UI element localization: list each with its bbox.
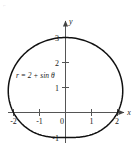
plot-canvas: -2 -1 0 1 2 -1 1 2 3 x y r = 2 + sin θ (0, 0, 137, 153)
x-axis-label: x (126, 108, 131, 117)
xtick-label-neg2: -2 (10, 117, 17, 126)
y-axis-label: y (68, 17, 73, 26)
xtick-label-neg1: -1 (36, 117, 43, 126)
ytick-label-neg1: -1 (52, 134, 59, 143)
axes-group (8, 21, 124, 143)
ytick-label-3: 3 (55, 34, 59, 43)
polar-plot-figure: ⌐ -2 -1 0 1 (0, 0, 137, 153)
equation-annotation: r = 2 + sin θ (16, 71, 55, 80)
xtick-label-zero: 0 (60, 117, 64, 126)
ytick-label-1: 1 (55, 84, 59, 93)
ytick-label-2: 2 (55, 59, 59, 68)
xtick-label-2: 2 (115, 117, 119, 126)
xtick-label-1: 1 (90, 117, 94, 126)
